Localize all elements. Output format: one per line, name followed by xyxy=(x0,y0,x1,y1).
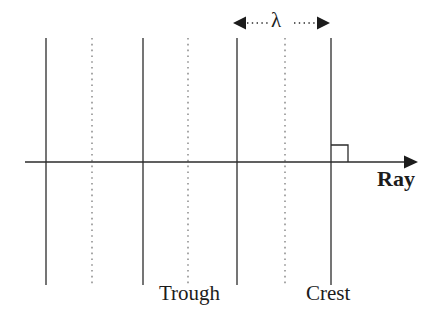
trough-label: Trough xyxy=(159,283,220,304)
diagram-canvas xyxy=(0,0,439,321)
wave-ray-diagram: λ Trough Crest Ray xyxy=(0,0,439,321)
left-arrowhead-icon xyxy=(233,17,246,30)
ray-label: Ray xyxy=(377,168,415,190)
crest-label: Crest xyxy=(306,283,350,304)
right-angle-marker-icon xyxy=(331,145,348,162)
right-arrowhead-icon xyxy=(317,17,330,30)
wavelength-measure xyxy=(233,17,330,30)
wavelength-symbol-label: λ xyxy=(271,10,281,31)
ray-axis xyxy=(25,156,418,169)
